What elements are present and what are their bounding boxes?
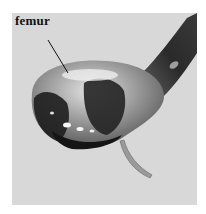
femur-illustration <box>12 13 197 205</box>
specimen-photo <box>12 13 197 205</box>
femur-label: femur <box>15 13 50 29</box>
